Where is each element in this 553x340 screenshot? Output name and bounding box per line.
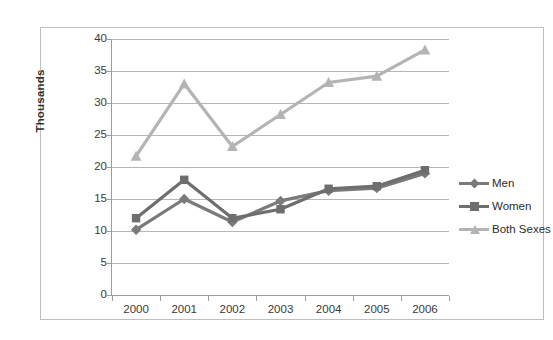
legend-label: Women bbox=[489, 200, 531, 212]
x-axis-tick-mark bbox=[208, 296, 209, 301]
y-axis-tick-label: 20 bbox=[77, 161, 107, 173]
series-overlay bbox=[112, 39, 449, 295]
x-axis-tick-mark bbox=[256, 296, 257, 301]
data-point-marker bbox=[324, 185, 332, 193]
legend-swatch bbox=[459, 199, 489, 213]
series-men bbox=[131, 168, 430, 235]
series-women bbox=[132, 166, 429, 222]
y-axis-tick-mark bbox=[106, 231, 111, 232]
data-point-marker bbox=[179, 78, 190, 88]
y-axis-tick-label: 25 bbox=[77, 129, 107, 141]
y-axis-tick-mark bbox=[106, 71, 111, 72]
y-axis-tick-label: 15 bbox=[77, 193, 107, 205]
x-axis-tick-mark bbox=[112, 296, 113, 301]
y-axis-tick-label: 10 bbox=[77, 225, 107, 237]
y-axis-tick-labels: 0510152025303540 bbox=[76, 39, 107, 295]
legend-swatch bbox=[459, 176, 489, 190]
legend-item-men[interactable]: Men bbox=[459, 171, 553, 194]
y-axis-tick-label: 5 bbox=[77, 257, 107, 269]
y-axis-tick-mark bbox=[106, 135, 111, 136]
y-axis-tick-mark bbox=[106, 295, 111, 296]
legend-swatch bbox=[459, 222, 489, 236]
x-axis-tick-label: 2006 bbox=[395, 303, 455, 315]
data-point-marker bbox=[420, 44, 431, 54]
data-point-marker bbox=[275, 196, 285, 206]
data-point-marker bbox=[132, 214, 140, 222]
y-axis-title: Thousands bbox=[34, 46, 50, 156]
legend-marker bbox=[470, 225, 480, 234]
legend-item-both-sexes[interactable]: Both Sexes bbox=[459, 217, 553, 240]
y-axis-tick-label: 0 bbox=[77, 289, 107, 301]
chart-frame: Thousands 0510152025303540 2000200120022… bbox=[40, 27, 544, 320]
x-axis-tick-mark bbox=[160, 296, 161, 301]
series-line bbox=[136, 50, 425, 156]
series-both-sexes bbox=[131, 44, 431, 160]
data-point-marker bbox=[180, 176, 188, 184]
y-axis-tick-mark bbox=[106, 167, 111, 168]
legend-marker bbox=[470, 202, 479, 211]
data-point-marker bbox=[421, 166, 429, 174]
data-point-marker bbox=[373, 182, 381, 190]
data-point-marker bbox=[228, 214, 236, 222]
y-axis-tick-mark bbox=[106, 199, 111, 200]
legend-label: Men bbox=[489, 177, 514, 189]
y-axis-tick-mark bbox=[106, 263, 111, 264]
data-point-marker bbox=[276, 205, 284, 213]
legend-label: Both Sexes bbox=[489, 223, 551, 235]
x-axis-line bbox=[111, 295, 449, 296]
y-axis-tick-label: 35 bbox=[77, 65, 107, 77]
x-axis-tick-mark bbox=[305, 296, 306, 301]
x-axis-tick-mark bbox=[449, 296, 450, 301]
chart-legend: MenWomenBoth Sexes bbox=[459, 171, 553, 240]
y-axis-tick-label: 30 bbox=[77, 97, 107, 109]
legend-marker bbox=[470, 178, 480, 188]
plot-wrapper: 0510152025303540 20002001200220032004200… bbox=[76, 29, 451, 321]
x-axis-tick-mark bbox=[353, 296, 354, 301]
legend-item-women[interactable]: Women bbox=[459, 194, 553, 217]
y-axis-tick-mark bbox=[106, 39, 111, 40]
y-axis-tick-label: 40 bbox=[77, 33, 107, 45]
x-axis-tick-mark bbox=[401, 296, 402, 301]
y-axis-tick-mark bbox=[106, 103, 111, 104]
